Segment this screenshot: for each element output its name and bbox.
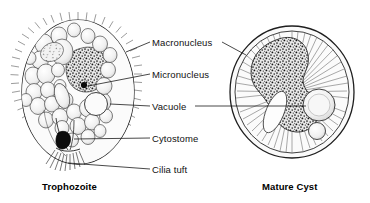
label-cilia-tuft: Cilia tuft	[152, 164, 187, 175]
leader-macronucleus-left	[126, 42, 150, 52]
cyst-vacuole-small	[309, 123, 326, 140]
trophozoite-micronucleus	[81, 82, 87, 88]
caption-trophozoite: Trophozoite	[42, 181, 97, 192]
label-cytostome: Cytostome	[152, 133, 198, 144]
label-macronucleus: Macronucleus	[152, 37, 212, 48]
trophozoite-contractile-vacuole	[85, 93, 108, 116]
caption-mature-cyst: Mature Cyst	[262, 181, 317, 192]
leader-cilia-tuft	[68, 163, 150, 169]
specimen-trophozoite	[11, 12, 143, 171]
label-micronucleus: Micronucleus	[152, 69, 209, 80]
label-vacuole: Vacuole	[152, 101, 186, 112]
leader-macronucleus-right	[222, 42, 246, 55]
figure-balantidium-coli: Macronucleus Micronucleus Vacuole Cytost…	[0, 0, 370, 203]
specimen-mature-cyst	[230, 26, 354, 158]
